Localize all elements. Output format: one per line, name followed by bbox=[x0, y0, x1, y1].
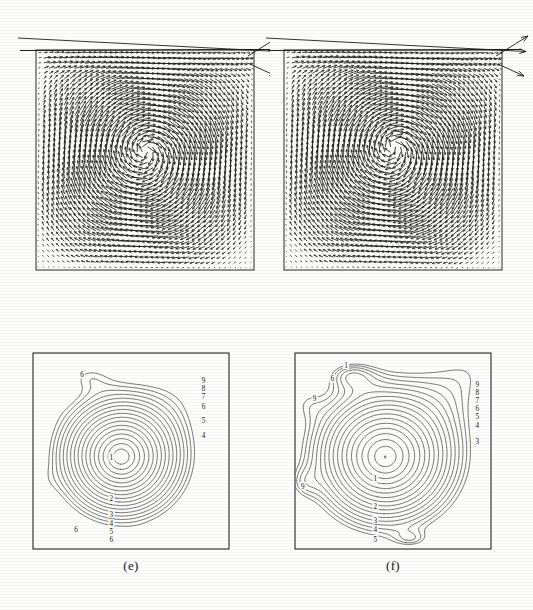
vector-left-svg bbox=[0, 0, 270, 300]
contour-label: 2 bbox=[110, 495, 114, 503]
panel-contour-e: 12345666987654 bbox=[0, 330, 270, 570]
contour-label: 5 bbox=[202, 417, 206, 425]
contour-label: 6 bbox=[330, 375, 334, 383]
panel-contour-f: 1234516999876543 bbox=[262, 330, 533, 570]
contour-label: 4 bbox=[202, 432, 206, 440]
contour-label: 3 bbox=[475, 438, 479, 446]
contour-label: 9 bbox=[313, 395, 317, 403]
caption-panel-e: (e) bbox=[101, 558, 161, 574]
contour-label: 5 bbox=[475, 413, 479, 421]
contour-label: 1 bbox=[374, 475, 378, 483]
contour-label: 6 bbox=[80, 371, 84, 379]
contour-e-svg: 12345666987654 bbox=[0, 330, 270, 570]
contour-label: 3 bbox=[110, 511, 114, 519]
contour-label: 1 bbox=[110, 454, 114, 462]
panel-vector-right bbox=[248, 0, 533, 300]
contour-label: 3 bbox=[374, 517, 378, 525]
contour-label: 6 bbox=[202, 403, 206, 411]
caption-panel-f: (f) bbox=[363, 558, 423, 574]
contour-label: 5 bbox=[374, 536, 378, 544]
figure-canvas: 12345666987654 1234516999876543 (e) (f) bbox=[0, 0, 533, 610]
contour-label: 7 bbox=[202, 393, 206, 401]
contour-f-svg: 1234516999876543 bbox=[262, 330, 533, 570]
contour-label: 1 bbox=[344, 362, 348, 370]
contour-label: 6 bbox=[74, 526, 78, 534]
contour-label: 6 bbox=[110, 536, 114, 544]
contour-label: 4 bbox=[374, 526, 378, 534]
panel-vector-left bbox=[0, 0, 270, 300]
contour-label: 9 bbox=[301, 483, 305, 491]
vector-right-svg bbox=[248, 0, 533, 300]
contour-label: 4 bbox=[475, 422, 479, 430]
contour-label: 2 bbox=[374, 503, 378, 511]
